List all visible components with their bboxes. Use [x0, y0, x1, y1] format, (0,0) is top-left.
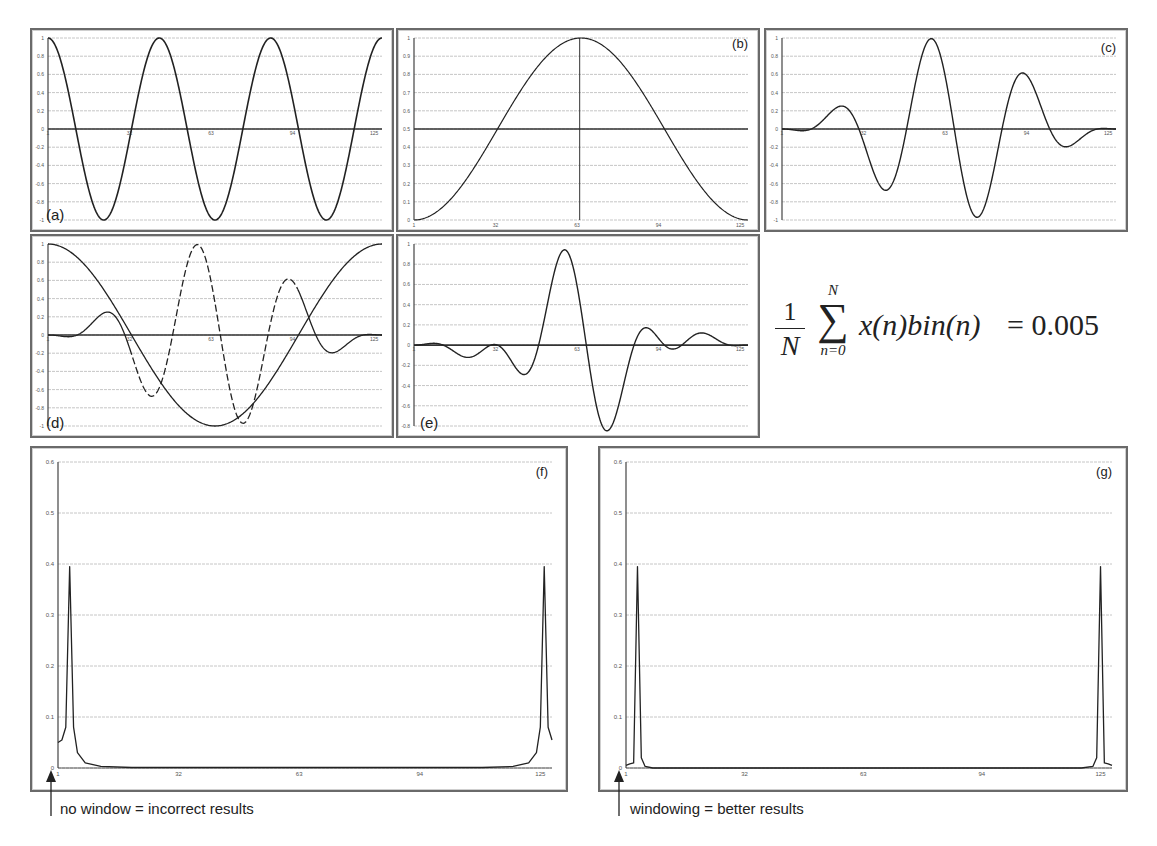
chart-a-plot: 10.80.60.40.20-0.2-0.4-0.6-0.8-113263941…: [32, 30, 392, 230]
summation-formula: 1 N N ∑ n=0 x(n)bin(n) = 0.005: [775, 282, 1145, 382]
y-tick-label: -0.8: [401, 423, 410, 429]
x-tick-label: 63: [942, 130, 948, 136]
y-tick-label: 0.3: [403, 162, 410, 168]
chart-e-grid: 10.80.60.40.20-0.2-0.4-0.6-0.81326394125: [401, 241, 748, 429]
x-tick-label: 1: [47, 130, 50, 136]
x-tick-label: 125: [370, 130, 379, 136]
y-tick-label: -0.4: [401, 383, 410, 389]
y-tick-label: -0.6: [35, 181, 44, 187]
y-tick-label: -0.2: [401, 362, 410, 368]
x-tick-label: 125: [1104, 130, 1113, 136]
chart-b-plot: 10.90.80.70.60.50.40.30.20.101326394125: [398, 30, 758, 230]
y-tick-label: 0.2: [771, 108, 778, 114]
y-tick-label: -0.6: [35, 387, 44, 393]
x-tick-label: 94: [416, 771, 423, 777]
chart-b-grid: 10.90.80.70.60.50.40.30.20.101326394125: [403, 35, 748, 228]
x-tick-label: 1: [413, 346, 416, 352]
y-tick-label: 0.6: [37, 71, 44, 77]
y-tick-label: 0.8: [771, 53, 778, 59]
x-tick-label: 32: [175, 771, 182, 777]
y-tick-label: -0.4: [35, 162, 44, 168]
fraction-numerator: 1: [775, 298, 805, 326]
sum-lower-limit: n=0: [813, 342, 853, 358]
y-tick-label: 0.6: [614, 459, 623, 465]
y-tick-label: 0.7: [403, 90, 410, 96]
y-tick-label: 0.2: [37, 108, 44, 114]
x-tick-label: 63: [208, 336, 214, 342]
y-tick-label: -0.4: [35, 368, 44, 374]
chart-e-plot: 10.80.60.40.20-0.2-0.4-0.6-0.81326394125: [398, 236, 758, 436]
y-tick-label: 1: [41, 35, 44, 41]
y-tick-label: -0.8: [35, 405, 44, 411]
panel-e: 10.80.60.40.20-0.2-0.4-0.6-0.81326394125…: [396, 234, 760, 438]
y-tick-label: 0.2: [403, 181, 410, 187]
x-tick-label: 1: [47, 336, 50, 342]
y-tick-label: -0.2: [35, 144, 44, 150]
panel-f: 0.60.50.40.30.20.101326394125 (f): [30, 446, 568, 792]
y-tick-label: 0.1: [614, 714, 623, 720]
x-tick-label: 32: [741, 771, 748, 777]
y-tick-label: -0.2: [769, 144, 778, 150]
panel-b: 10.90.80.70.60.50.40.30.20.101326394125 …: [396, 28, 760, 232]
fraction-denominator: N: [775, 331, 805, 361]
y-tick-label: 0.2: [37, 314, 44, 320]
chart-d-plot: 10.80.60.40.20-0.2-0.4-0.6-0.8-113263941…: [32, 236, 392, 436]
series-line-solid: [48, 312, 130, 348]
panel-label-g: (g): [1096, 464, 1112, 479]
series-line: [782, 39, 1116, 218]
y-tick-label: 0: [407, 342, 410, 348]
x-tick-label: 94: [290, 130, 296, 136]
y-tick-label: 0: [775, 126, 778, 132]
y-tick-label: -0.8: [769, 199, 778, 205]
x-tick-label: 125: [535, 771, 546, 777]
x-tick-label: 125: [736, 222, 745, 228]
y-tick-label: 0.4: [614, 561, 623, 567]
y-tick-label: 0.9: [403, 53, 410, 59]
y-tick-label: 0: [41, 126, 44, 132]
x-tick-label: 125: [736, 346, 745, 352]
panel-label-b: (b): [732, 36, 748, 51]
x-tick-label: 63: [574, 346, 580, 352]
y-tick-label: 0.4: [771, 90, 778, 96]
y-tick-label: -1: [40, 217, 45, 223]
y-tick-label: 0: [407, 217, 410, 223]
y-tick-label: 0.4: [403, 302, 410, 308]
y-tick-label: -0.6: [401, 403, 410, 409]
y-tick-label: 0.2: [614, 663, 623, 669]
y-tick-label: 0.5: [46, 510, 55, 516]
annotation-windowing: windowing = better results: [630, 800, 804, 817]
y-tick-label: -0.8: [35, 199, 44, 205]
y-tick-label: -1: [774, 217, 779, 223]
y-tick-label: -0.2: [35, 350, 44, 356]
annotation-no-window: no window = incorrect results: [60, 800, 254, 817]
y-tick-label: 0.6: [403, 108, 410, 114]
series-line-dashed: [130, 245, 298, 424]
spectrum-line: [626, 567, 1112, 768]
x-tick-label: 63: [208, 130, 214, 136]
x-tick-label: 63: [860, 771, 867, 777]
y-tick-label: 0.4: [46, 561, 55, 567]
y-tick-label: 0.8: [37, 53, 44, 59]
panel-a: 10.80.60.40.20-0.2-0.4-0.6-0.8-113263941…: [30, 28, 394, 232]
y-tick-label: 1: [407, 241, 410, 247]
arrow-f-icon: [44, 770, 58, 818]
panel-c: 10.80.60.40.20-0.2-0.4-0.6-0.8-113263941…: [764, 28, 1128, 232]
x-tick-label: 32: [493, 222, 499, 228]
x-tick-label: 94: [979, 771, 986, 777]
y-tick-label: 0.6: [46, 459, 55, 465]
sum-operator: N ∑ n=0: [813, 282, 853, 358]
sum-body: x(n)bin(n): [859, 308, 981, 342]
series-line: [414, 250, 748, 431]
chart-a-grid: 10.80.60.40.20-0.2-0.4-0.6-0.8-113263941…: [35, 35, 382, 223]
x-tick-label: 1: [413, 222, 416, 228]
panel-label-c: (c): [1101, 40, 1116, 55]
y-tick-label: 0.5: [403, 126, 410, 132]
sigma-symbol: ∑: [813, 298, 853, 342]
x-tick-label: 94: [1024, 130, 1030, 136]
arrow-g-icon: [612, 770, 626, 818]
y-tick-label: 0.4: [403, 144, 410, 150]
y-tick-label: 1: [407, 35, 410, 41]
y-tick-label: 0.4: [37, 296, 44, 302]
y-tick-label: 0: [41, 332, 44, 338]
spectrum-line: [58, 567, 552, 768]
